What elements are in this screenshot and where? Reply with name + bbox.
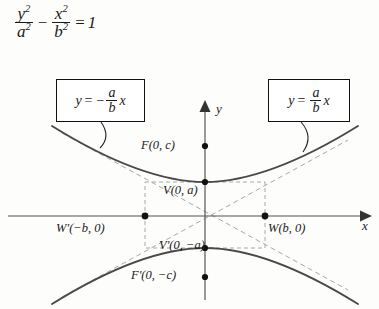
x-axis-label: x <box>362 218 368 234</box>
y-axis-label: y <box>216 101 222 117</box>
hyperbola-equation: y2 a2 − x2 b2 = 1 <box>13 5 96 41</box>
callout-right-var: x <box>323 93 329 109</box>
label-w-right: W(b, 0) <box>268 221 306 236</box>
equation-term-y: y2 a2 <box>15 5 33 41</box>
leader-line-left <box>100 122 106 148</box>
callout-left-var: x <box>119 93 125 109</box>
label-focus-upper: F(0, c) <box>141 138 175 153</box>
callout-left-fraction: a b <box>106 86 117 116</box>
w-right-point <box>262 213 269 220</box>
callout-asymptote-negative: y = − a b x <box>56 79 145 122</box>
callout-right-lhs: y <box>288 93 294 109</box>
label-w-left: W′(−b, 0) <box>56 221 105 236</box>
hyperbola-figure: y2 a2 − x2 b2 = 1 y = − a b x y = a <box>0 0 379 309</box>
focus-upper-point <box>202 143 208 149</box>
equation-equals: = <box>75 13 85 33</box>
callout-left-sign: − <box>97 93 105 109</box>
callout-asymptote-positive: y = a b x <box>268 79 350 122</box>
label-vertex-upper: V(0, a) <box>163 183 198 198</box>
callout-right-equals: = <box>298 93 306 109</box>
figure-canvas <box>0 0 379 309</box>
vertex-upper-point <box>202 179 208 185</box>
equation-rhs: 1 <box>88 13 97 33</box>
label-focus-lower: F′(0, −c) <box>131 268 176 283</box>
equation-term-x: x2 b2 <box>52 5 70 41</box>
callout-left-lhs: y <box>75 93 81 109</box>
y-axis-arrowhead <box>200 100 211 112</box>
equation-operator: − <box>38 13 48 33</box>
callout-left-equals: = <box>85 93 93 109</box>
callout-right-fraction: a b <box>310 86 321 116</box>
focus-lower-point <box>202 274 208 280</box>
label-vertex-lower: V′(0, −a) <box>159 238 205 253</box>
leader-line-right <box>301 122 308 152</box>
w-left-point <box>142 213 149 220</box>
